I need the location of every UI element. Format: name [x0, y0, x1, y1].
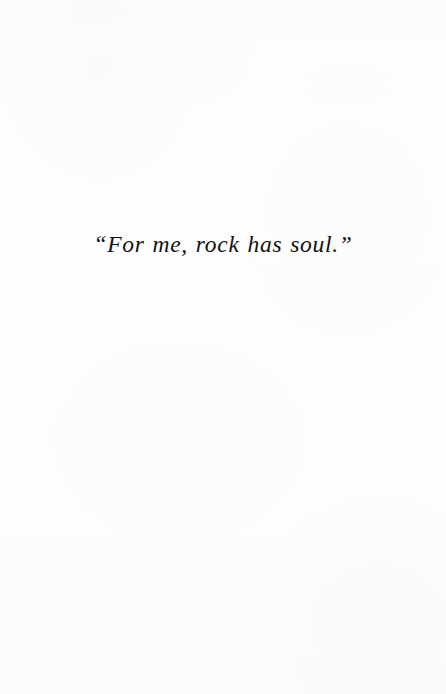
epigraph-quote: “For me, rock has soul.”: [93, 231, 352, 257]
epigraph-block: “For me, rock has soul.”: [0, 231, 446, 257]
book-page: “For me, rock has soul.”: [0, 0, 446, 694]
